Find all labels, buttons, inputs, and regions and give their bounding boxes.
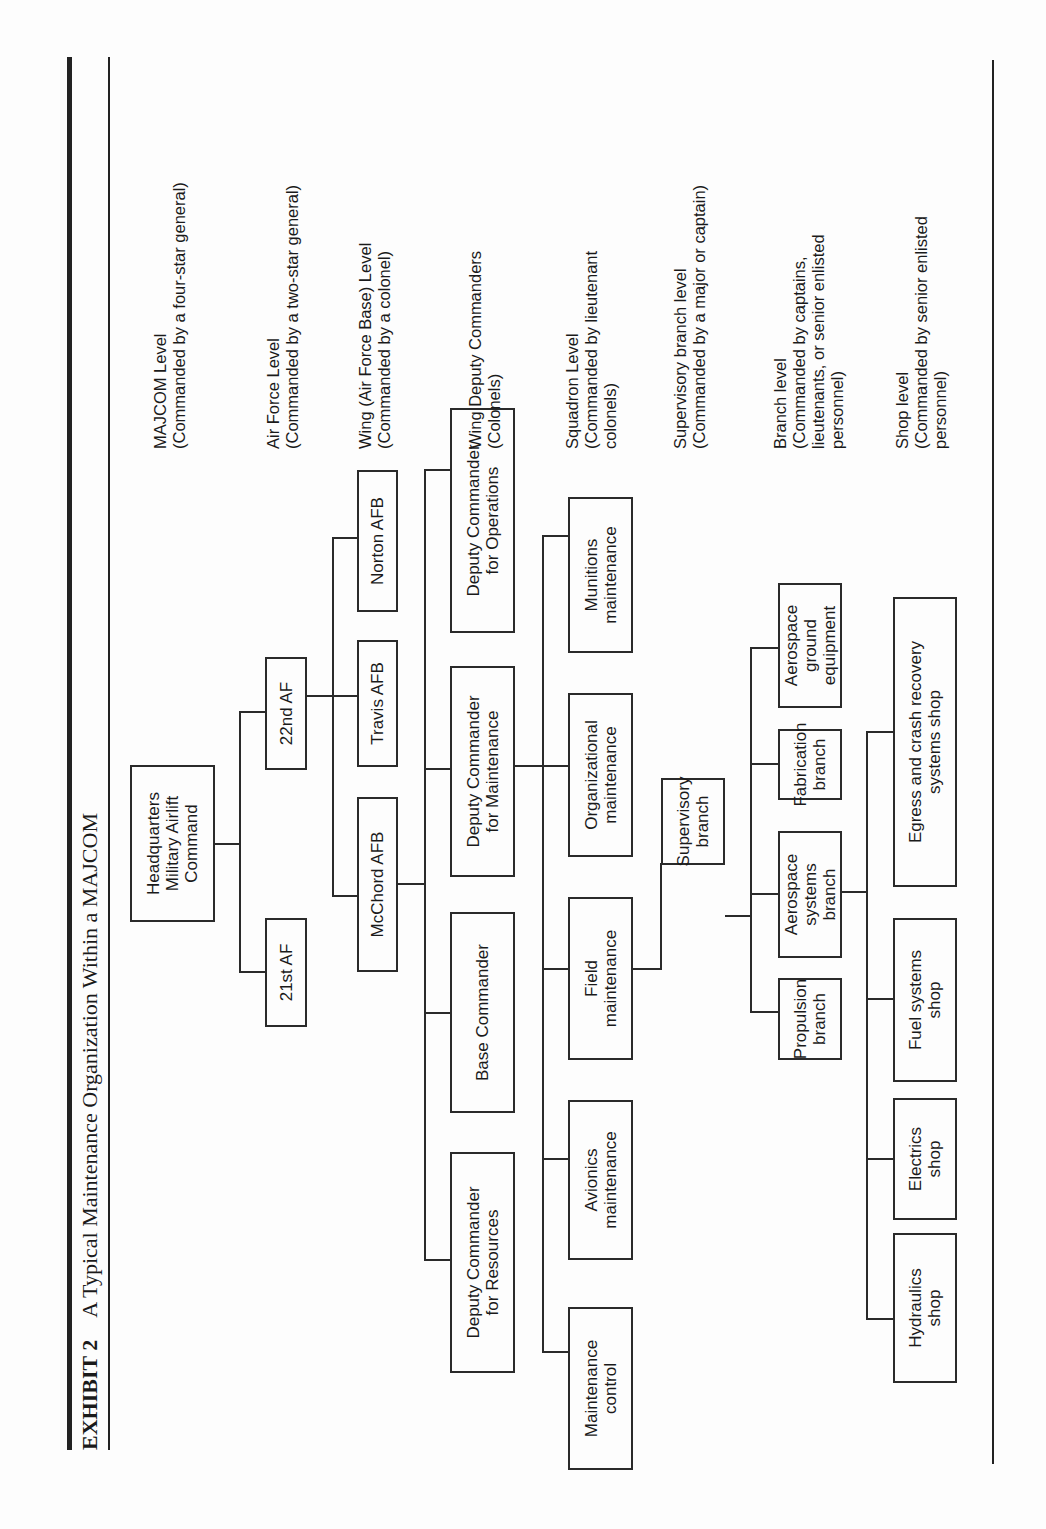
connector [750, 893, 778, 895]
level-line: (Commanded by a four-star general) [170, 182, 189, 449]
exhibit-title: EXHIBIT 2A Typical Maintenance Organizat… [73, 813, 107, 1450]
node-line: for Operations [483, 444, 502, 596]
level-line: lieutenants, or senior enlisted [809, 234, 828, 449]
node-22nd-af: 22nd AF [265, 657, 307, 770]
connector [332, 695, 357, 697]
node-line: maintenance [601, 930, 620, 1027]
node-line: 21st AF [277, 944, 296, 1002]
node-norton-afb: Norton AFB [357, 470, 398, 612]
exhibit-bottom-rule [992, 60, 994, 1464]
level-label-branch: Branch level (Commanded by captains, lie… [771, 234, 847, 449]
level-label-squadron: Squadron Level (Commanded by lieutenant … [563, 251, 620, 449]
exhibit-caption: A Typical Maintenance Organization Withi… [77, 813, 102, 1318]
node-line: branch [810, 722, 829, 806]
node-aerospace-systems-branch: Aerospace systemsbranch [778, 831, 842, 958]
connector [866, 731, 893, 733]
node-line: shop [925, 1268, 944, 1347]
level-line: (Colonels) [485, 251, 504, 449]
node-line: Norton AFB [368, 497, 387, 585]
node-supervisory-branch: Supervisorybranch [661, 778, 725, 865]
level-line: personnel) [828, 234, 847, 449]
connector [660, 865, 662, 970]
node-line: Aerospace [782, 587, 801, 704]
connector [866, 1158, 893, 1160]
node-line: Deputy Commander [464, 695, 483, 847]
node-electrics-shop: Electricsshop [893, 1098, 957, 1220]
node-egress-crash-recovery-shop: Egress and crash recoverysystems shop [893, 597, 957, 887]
node-line: 22nd AF [277, 682, 296, 745]
connector [424, 768, 450, 770]
level-line: (Commanded by senior enlisted [912, 216, 931, 449]
title-bottom-rule [108, 57, 110, 1450]
node-hydraulics-shop: Hydraulicsshop [893, 1233, 957, 1383]
level-line: Branch level [771, 234, 790, 449]
node-21st-af: 21st AF [265, 918, 307, 1027]
node-propulsion-branch: Propulsionbranch [778, 978, 842, 1060]
connector [424, 1259, 450, 1261]
node-line: systems shop [925, 641, 944, 843]
connector [866, 1318, 893, 1320]
level-line: Shop level [893, 216, 912, 449]
connector [542, 1351, 568, 1353]
node-line: for Maintenance [483, 695, 502, 847]
connector [332, 538, 334, 897]
connector [842, 891, 867, 893]
node-line: shop [925, 950, 944, 1050]
node-line: Field [582, 930, 601, 1027]
level-line: personnel) [931, 216, 950, 449]
level-line: (Commanded by a colonel) [375, 243, 394, 449]
node-dc-resources: Deputy Commanderfor Resources [450, 1152, 515, 1373]
node-aerospace-ground-equipment: Aerospaceground equipment [778, 583, 842, 708]
node-line: Base Commander [473, 944, 492, 1081]
node-line: Travis AFB [368, 662, 387, 745]
connector [542, 535, 568, 537]
connector [332, 895, 357, 897]
connector [725, 915, 751, 917]
level-label-air-force: Air Force Level (Commanded by a two-star… [264, 185, 302, 449]
level-line: Squadron Level [563, 251, 582, 449]
connector [542, 968, 568, 970]
node-line: shop [925, 1127, 944, 1191]
level-label-majcom: MAJCOM Level (Commanded by a four-star g… [151, 182, 189, 449]
level-line: MAJCOM Level [151, 182, 170, 449]
connector [239, 971, 265, 973]
connector [866, 732, 868, 1320]
connector [750, 763, 778, 765]
level-label-wing: Wing (Air Force Base) Level (Commanded b… [356, 243, 394, 449]
connector [866, 998, 893, 1000]
connector [542, 536, 544, 1353]
node-line: Military Airlift [163, 792, 182, 895]
node-line: Hydraulics [906, 1268, 925, 1347]
node-line: Maintenance [582, 1340, 601, 1437]
node-munitions-maintenance: Munitionsmaintenance [568, 497, 633, 653]
node-maintenance-control: Maintenancecontrol [568, 1307, 633, 1470]
connector [239, 712, 241, 973]
connector [424, 1012, 450, 1014]
rotated-document-page: EXHIBIT 2A Typical Maintenance Organizat… [0, 0, 1046, 1529]
node-line: Supervisory [674, 777, 693, 867]
connector [750, 1011, 778, 1013]
level-line: (Commanded by lieutenant [582, 251, 601, 449]
connector [542, 765, 568, 767]
level-line: (Commanded by a two-star general) [283, 185, 302, 449]
node-field-maintenance: Fieldmaintenance [568, 897, 633, 1060]
node-line: Aerospace systems [782, 835, 820, 954]
node-line: maintenance [601, 1131, 620, 1228]
node-avionics-maintenance: Avionicsmaintenance [568, 1100, 633, 1260]
node-line: Deputy Commander [464, 1186, 483, 1338]
node-line: Fuel systems [906, 950, 925, 1050]
node-base-commander: Base Commander [450, 912, 515, 1113]
node-line: Propulsion [791, 979, 810, 1059]
level-line: (Commanded by a major or captain) [690, 185, 709, 449]
node-line: ground equipment [801, 587, 839, 704]
node-line: Deputy Commander [464, 444, 483, 596]
connector [332, 537, 357, 539]
level-line: Wing Deputy Commanders [466, 251, 485, 449]
node-line: Headquarters [144, 792, 163, 895]
connector [750, 647, 778, 649]
node-line: maintenance [601, 526, 620, 623]
level-line: Wing (Air Force Base) Level [356, 243, 375, 449]
node-line: control [601, 1340, 620, 1437]
node-line: Organizational [582, 720, 601, 830]
connector [542, 1158, 568, 1160]
